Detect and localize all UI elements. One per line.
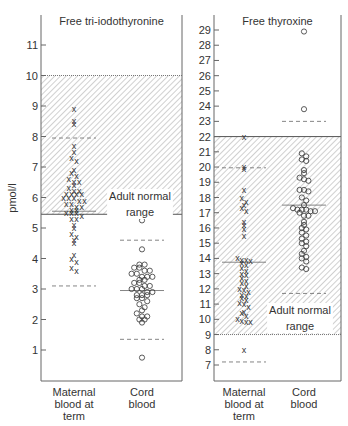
data-point-circle	[139, 355, 144, 360]
data-point-circle	[147, 268, 152, 273]
data-point-x: x	[248, 256, 253, 266]
y-tick-label: 20	[199, 161, 211, 173]
data-point-x: x	[242, 231, 247, 241]
data-point-x: x	[242, 345, 247, 355]
y-tick-label: 9	[32, 100, 38, 112]
data-point-circle	[132, 265, 137, 270]
data-point-x: x	[74, 266, 79, 276]
data-point-circle	[134, 293, 139, 298]
x-category-label: term	[63, 410, 85, 422]
y-axis-label: pmol/l	[6, 183, 18, 212]
y-tick-label: 12	[199, 283, 211, 295]
y-tick-label: 11	[200, 298, 211, 310]
y-tick-label: 19	[199, 176, 211, 188]
y-tick-label: 26	[199, 70, 211, 82]
data-point-circle	[142, 262, 147, 267]
y-tick-label: 13	[199, 268, 211, 280]
x-category-label: blood	[129, 398, 156, 410]
normal-range-label-line2: range	[286, 320, 314, 332]
data-point-circle	[132, 280, 137, 285]
data-point-circle	[142, 268, 147, 273]
x-category-label: Maternal	[53, 386, 96, 398]
y-tick-label: 1	[32, 344, 38, 356]
x-category-label: term	[233, 410, 255, 422]
data-point-x: x	[72, 104, 77, 114]
data-point-circle	[134, 271, 139, 276]
panel-free-t4: 7891011121314151617181920212223242526272…	[199, 15, 341, 422]
data-point-circle	[301, 107, 306, 112]
x-category-label: Cord	[130, 386, 154, 398]
data-point-x: x	[242, 164, 247, 174]
chart-title: Free tri-iodothyronine	[59, 15, 164, 27]
y-tick-label: 24	[199, 100, 211, 112]
data-point-circle	[147, 283, 152, 288]
y-tick-label: 9	[205, 329, 211, 341]
y-tick-label: 4	[32, 253, 38, 265]
y-tick-label: 11	[27, 39, 38, 51]
x-category-label: Cord	[292, 386, 316, 398]
data-point-circle	[137, 302, 142, 307]
y-tick-label: 23	[199, 115, 211, 127]
data-point-x: x	[72, 119, 77, 129]
data-point-circle	[139, 293, 144, 298]
y-tick-label: 28	[199, 39, 211, 51]
y-tick-label: 22	[199, 131, 211, 143]
y-tick-label: 3	[32, 283, 38, 295]
y-tick-label: 18	[199, 192, 211, 204]
normal-range-label-line1: Adult normal	[109, 190, 171, 202]
x-category-label: Maternal	[223, 386, 266, 398]
y-tick-label: 7	[205, 359, 211, 371]
data-point-x: x	[248, 317, 253, 327]
data-point-circle	[137, 280, 142, 285]
thyroid-hormone-chart: 1234567891011 xxxxxxxxxxxxxxxxxxxxxxxxxx…	[0, 0, 348, 426]
y-tick-label: 14	[199, 252, 211, 264]
y-tick-label: 8	[32, 131, 38, 143]
panel-free-t3: 1234567891011 xxxxxxxxxxxxxxxxxxxxxxxxxx…	[6, 15, 182, 422]
data-point-x: x	[80, 211, 85, 221]
data-point-circle	[137, 265, 142, 270]
data-point-circle	[150, 274, 155, 279]
normal-range-label-line2: range	[126, 206, 154, 218]
data-point-circle	[134, 311, 139, 316]
chart-title: Free thyroxine	[242, 15, 312, 27]
y-tick-label: 7	[32, 161, 38, 173]
data-point-circle	[137, 262, 142, 267]
data-point-circle	[134, 296, 139, 301]
y-tick-label: 17	[199, 207, 211, 219]
y-tick-label: 15	[199, 237, 211, 249]
data-point-circle	[139, 247, 144, 252]
y-tick-label: 10	[199, 313, 211, 325]
data-point-x: x	[242, 132, 247, 142]
data-point-circle	[139, 296, 144, 301]
data-point-x: x	[244, 206, 249, 216]
y-tick-label: 25	[199, 85, 211, 97]
y-tick-label: 6	[32, 192, 38, 204]
y-tick-label: 21	[199, 146, 211, 158]
data-point-circle	[145, 299, 150, 304]
y-tick-label: 5	[32, 222, 38, 234]
data-point-x: x	[72, 238, 77, 248]
normal-range-label-line1: Adult normal	[269, 304, 331, 316]
y-tick-label: 10	[26, 70, 38, 82]
data-point-circle	[301, 29, 306, 34]
y-tick-label: 16	[199, 222, 211, 234]
x-category-label: blood	[291, 398, 318, 410]
x-category-label: blood at	[224, 398, 263, 410]
data-point-circle	[145, 293, 150, 298]
y-tick-label: 27	[199, 54, 211, 66]
x-category-label: blood at	[54, 398, 93, 410]
y-tick-label: 2	[32, 314, 38, 326]
y-tick-label: 8	[205, 344, 211, 356]
data-point-circle	[129, 271, 134, 276]
y-tick-label: 29	[199, 24, 211, 36]
